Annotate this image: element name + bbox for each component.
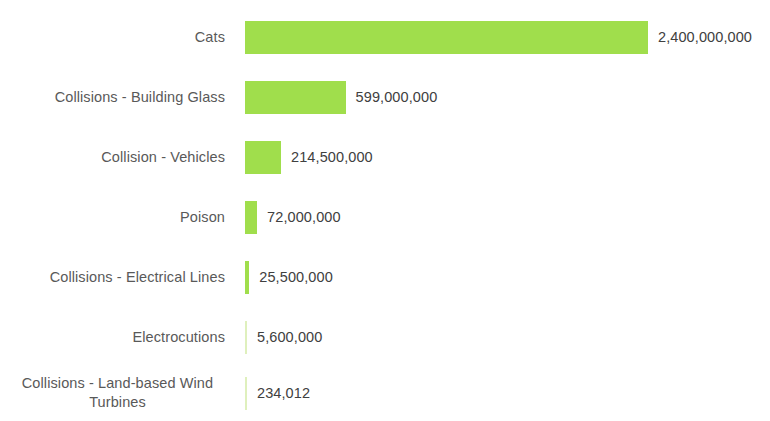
bar-area: 72,000,000 (235, 201, 770, 234)
value-label: 72,000,000 (267, 208, 341, 227)
bar (245, 201, 257, 234)
bar-row: Collisions - Land-based Wind Turbines234… (0, 365, 770, 421)
bar-area: 234,012 (235, 377, 770, 410)
category-label: Collisions - Electrical Lines (0, 268, 235, 287)
value-label: 2,400,000,000 (658, 28, 752, 47)
bar-area: 5,600,000 (235, 321, 770, 354)
bar-row: Collisions - Electrical Lines25,500,000 (0, 250, 770, 304)
bar-row: Collision - Vehicles214,500,000 (0, 130, 770, 184)
bar (245, 377, 247, 410)
bar (245, 81, 346, 114)
value-label: 214,500,000 (291, 148, 373, 167)
bar (245, 21, 648, 54)
category-label: Poison (0, 208, 235, 227)
bar-area: 214,500,000 (235, 141, 770, 174)
bar (245, 261, 249, 294)
bar-area: 2,400,000,000 (235, 21, 770, 54)
category-label: Collisions - Building Glass (0, 88, 235, 107)
category-label: Cats (0, 28, 235, 47)
category-label: Collisions - Land-based Wind Turbines (0, 374, 235, 412)
bar-row: Cats2,400,000,000 (0, 10, 770, 64)
category-label: Collision - Vehicles (0, 148, 235, 167)
bar-area: 25,500,000 (235, 261, 770, 294)
value-label: 234,012 (257, 384, 310, 403)
value-label: 5,600,000 (257, 328, 322, 347)
bar-row: Electrocutions5,600,000 (0, 310, 770, 364)
bar-chart: Cats2,400,000,000Collisions - Building G… (0, 0, 770, 421)
bar-row: Poison72,000,000 (0, 190, 770, 244)
bar-area: 599,000,000 (235, 81, 770, 114)
bar-row: Collisions - Building Glass599,000,000 (0, 70, 770, 124)
bar (245, 321, 247, 354)
category-label: Electrocutions (0, 328, 235, 347)
value-label: 599,000,000 (356, 88, 438, 107)
value-label: 25,500,000 (259, 268, 333, 287)
bar (245, 141, 281, 174)
